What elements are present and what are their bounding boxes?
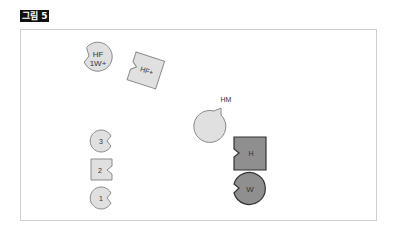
- shape-piece-2: 2: [91, 159, 112, 180]
- shape-label: HF: [93, 50, 104, 59]
- shape-piece-1: 1: [90, 187, 111, 209]
- shape-label: 2: [98, 167, 102, 174]
- shape-hf-1w-plus: HF 1W+: [84, 42, 112, 71]
- shape-label: H: [248, 150, 253, 157]
- shape-label: 3: [99, 138, 103, 145]
- shape-piece-3: 3: [90, 130, 111, 152]
- shape-w: W: [234, 173, 265, 205]
- shape-hm: HM: [194, 96, 232, 142]
- shape-h: H: [234, 137, 266, 170]
- diagram-canvas: HF 1W+ HF+ HM 3 2 1 H W: [0, 0, 395, 235]
- shape-hf-plus: HF+: [127, 52, 164, 89]
- shape-label: 1W+: [90, 59, 107, 68]
- shape-label: HM: [221, 96, 232, 103]
- shape-label: W: [246, 185, 254, 194]
- shape-label: 1: [99, 195, 103, 202]
